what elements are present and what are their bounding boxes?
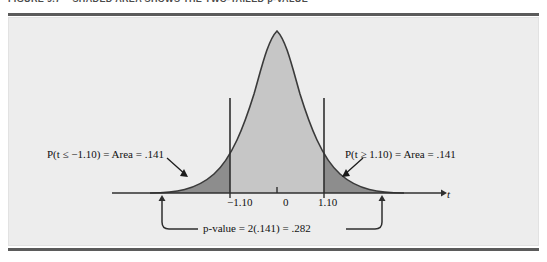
bottom-rule: [8, 248, 539, 251]
x-axis-label: t: [447, 188, 450, 200]
left-tail-label: P(t ≤ −1.10) = Area = .141: [47, 148, 164, 160]
center-region-fill: [230, 20, 324, 195]
figure-container: FIGURE 9.7SHADED AREA SHOWS THE TWO-TAIL…: [0, 0, 547, 262]
bracket-right-arrowhead: [379, 195, 386, 201]
x-tick-label-negative: −1.10: [227, 196, 252, 208]
right-tail-fill: [324, 20, 416, 195]
x-tick-label-positive: 1.10: [318, 196, 337, 208]
left-tail-fill: [140, 20, 230, 195]
right-tail-label: P(t ≥ 1.10) = Area = .141: [345, 148, 456, 160]
p-value-label: p-value = 2(.141) = .282: [203, 222, 311, 234]
bracket-left-arrowhead: [159, 195, 166, 201]
x-tick-label-zero: 0: [283, 196, 289, 208]
